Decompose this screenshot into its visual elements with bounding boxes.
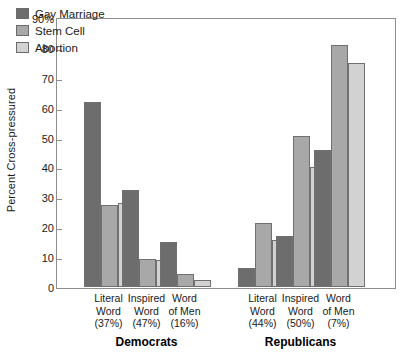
legend-item[interactable]: Stem Cell	[16, 23, 105, 38]
bar[interactable]	[348, 63, 365, 287]
y-axis-tick-mark	[57, 199, 62, 200]
bar[interactable]	[194, 280, 211, 287]
bar[interactable]	[314, 150, 331, 287]
legend-item[interactable]: Gay Marriage	[16, 6, 105, 21]
bar[interactable]	[101, 205, 118, 287]
y-axis-tick-label: 30	[18, 193, 54, 204]
legend-swatch-icon	[16, 8, 29, 19]
x-axis-category-label-line: Word	[305, 292, 373, 305]
x-axis-category-label-line: (7%)	[305, 317, 373, 330]
y-axis-tick-mark	[57, 259, 62, 260]
y-axis-tick-label: 10	[18, 253, 54, 264]
bar[interactable]	[276, 236, 293, 287]
y-axis-tick-label: 20	[18, 223, 54, 234]
bar[interactable]	[122, 190, 139, 287]
bar[interactable]	[293, 136, 310, 287]
x-axis-category-label: Wordof Men(7%)	[305, 292, 373, 330]
x-axis-category-label-line: (16%)	[151, 317, 219, 330]
y-axis-tick-label: 70	[18, 73, 54, 84]
y-axis-tick-mark	[57, 169, 62, 170]
y-axis-tick-label: 50	[18, 133, 54, 144]
x-axis-group-label: Democrats	[77, 335, 217, 349]
bar[interactable]	[177, 274, 194, 287]
y-axis-tick-mark	[57, 80, 62, 81]
legend-item[interactable]: Abortion	[16, 40, 105, 55]
bar[interactable]	[238, 268, 255, 287]
y-axis-tick-label: 60	[18, 103, 54, 114]
x-axis-category-label-line: of Men	[151, 305, 219, 318]
x-axis-category-label-line: Word	[151, 292, 219, 305]
bar-group	[160, 20, 211, 287]
legend-label: Gay Marriage	[35, 8, 105, 20]
x-axis-group-labels: DemocratsRepublicans	[56, 335, 396, 355]
x-axis-category-label-line: of Men	[305, 305, 373, 318]
bar[interactable]	[84, 102, 101, 287]
bar-groups	[58, 20, 394, 287]
legend-swatch-icon	[16, 42, 29, 53]
y-axis-tick-label: 0	[18, 283, 54, 294]
chart-legend: Gay MarriageStem CellAbortion	[16, 6, 105, 55]
legend-swatch-icon	[16, 25, 29, 36]
y-axis-tick-mark	[57, 229, 62, 230]
plot-area	[56, 18, 396, 289]
chart-figure: Percent Cross-pressured 90%8070605040302…	[0, 0, 405, 360]
legend-label: Stem Cell	[35, 25, 85, 37]
y-axis-tick-label: 40	[18, 163, 54, 174]
bar[interactable]	[139, 259, 156, 287]
bar[interactable]	[255, 223, 272, 287]
y-axis-tick-mark	[57, 140, 62, 141]
bar[interactable]	[160, 242, 177, 287]
y-axis-tick-labels: 90%80706050403020100	[18, 18, 54, 289]
bar-group	[314, 20, 365, 287]
x-axis-group-label: Republicans	[231, 335, 371, 349]
x-axis-category-label: Wordof Men(16%)	[151, 292, 219, 330]
bar[interactable]	[331, 45, 348, 287]
y-axis-title-text: Percent Cross-pressured	[5, 88, 17, 213]
y-axis-tick-mark	[57, 110, 62, 111]
x-axis-category-labels: LiteralWord(37%)InspiredWord(47%)Wordof …	[56, 292, 396, 336]
legend-label: Abortion	[35, 42, 78, 54]
